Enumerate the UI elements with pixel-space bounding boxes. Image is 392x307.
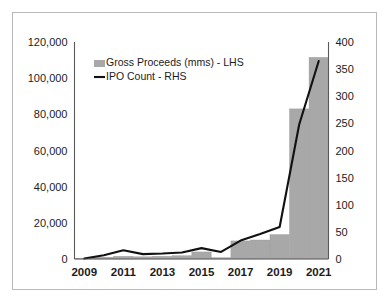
legend-label-gross-proceeds: Gross Proceeds (mms) - LHS (106, 56, 244, 68)
x-tick-2013: 2013 (150, 266, 176, 278)
bar-2018 (250, 240, 269, 259)
bar-2021 (309, 57, 328, 259)
left-axis-tick-labels: 020,00040,00060,00080,000100,000120,000 (28, 36, 68, 265)
x-tick-2011: 2011 (111, 266, 137, 278)
left-tick-100,000: 100,000 (28, 72, 68, 84)
right-tick-250: 250 (336, 117, 354, 129)
right-tick-300: 300 (336, 90, 354, 102)
right-tick-200: 200 (336, 145, 354, 157)
x-tick-2015: 2015 (189, 266, 215, 278)
chart-container: 020,00040,00060,00080,000100,000120,000 … (0, 0, 392, 307)
right-tick-50: 50 (336, 226, 348, 238)
x-tick-2021: 2021 (306, 266, 332, 278)
left-tick-60,000: 60,000 (34, 145, 68, 157)
right-tick-350: 350 (336, 63, 354, 75)
legend-swatch-proceeds (94, 60, 105, 67)
bar-series-group (75, 57, 329, 259)
ipo-count-line (84, 61, 318, 258)
bar-2015 (192, 252, 211, 259)
x-tick-2017: 2017 (228, 266, 254, 278)
legend-label-ipo-count: IPO Count - RHS (106, 70, 187, 82)
chart-legend: Gross Proceeds (mms) - LHSIPO Count - RH… (94, 56, 244, 82)
bar-2020 (290, 109, 309, 259)
left-tick-80,000: 80,000 (34, 108, 68, 120)
right-tick-100: 100 (336, 199, 354, 211)
bar-2019 (270, 235, 289, 259)
combo-bar-line-chart: 020,00040,00060,00080,000100,000120,000 … (0, 0, 392, 307)
right-axis-tick-labels: 050100150200250300350400 (336, 36, 354, 265)
x-axis-tick-labels: 2009201120132015201720192021 (71, 266, 332, 278)
right-tick-0: 0 (336, 253, 342, 265)
left-tick-0: 0 (61, 253, 67, 265)
line-series-group (84, 61, 318, 258)
left-tick-20,000: 20,000 (34, 217, 68, 229)
right-tick-400: 400 (336, 36, 354, 48)
left-tick-40,000: 40,000 (34, 181, 68, 193)
right-tick-150: 150 (336, 172, 354, 184)
x-tick-2019: 2019 (267, 266, 293, 278)
x-tick-2009: 2009 (71, 266, 97, 278)
left-tick-120,000: 120,000 (28, 36, 68, 48)
